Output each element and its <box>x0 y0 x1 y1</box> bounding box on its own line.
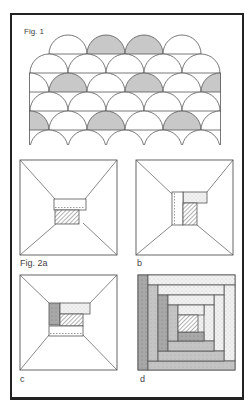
fig2a-label: Fig. 2a <box>20 258 48 268</box>
fig2b-diagram <box>135 159 235 257</box>
fig2a-diagram <box>19 159 119 257</box>
fig2c-label: c <box>20 374 25 384</box>
fig2d-diagram <box>137 274 237 372</box>
fig2b-label: b <box>137 258 142 268</box>
fig2c-diagram <box>19 274 119 372</box>
fig1-scale-pattern <box>0 0 245 150</box>
fig2d-label: d <box>140 374 145 384</box>
